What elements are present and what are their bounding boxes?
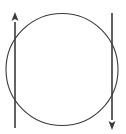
- left-arrow-up: [12, 12, 19, 128]
- left-arrowhead-up-icon: [12, 12, 19, 21]
- circle-shape: [6, 14, 118, 126]
- diagram-canvas: Circle with two opposed vertical arrows …: [0, 0, 126, 134]
- right-arrow-down: [109, 13, 116, 130]
- right-arrowhead-down-icon: [109, 121, 116, 130]
- diagram-svg: Circle with two opposed vertical arrows …: [0, 0, 126, 134]
